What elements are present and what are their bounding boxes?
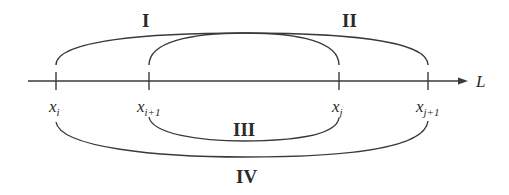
interval-label-IV: IV: [236, 166, 257, 187]
point-label-x-j-plus-1: xj+1: [415, 97, 440, 118]
interval-label-III: III: [233, 119, 255, 140]
point-label-x-i: xi: [48, 97, 60, 118]
interval-arc-II: [149, 33, 428, 65]
axis-arrow-icon: [458, 78, 468, 85]
interval-diagram: L xi xi+1 xj xj+1 I II III IV: [0, 0, 509, 195]
interval-arc-I: [56, 33, 339, 65]
interval-label-II: II: [342, 10, 357, 31]
axis-label: L: [475, 72, 485, 91]
interval-label-I: I: [142, 10, 149, 31]
point-label-x-i-plus-1: xi+1: [136, 97, 161, 118]
point-label-x-j: xj: [331, 97, 343, 118]
